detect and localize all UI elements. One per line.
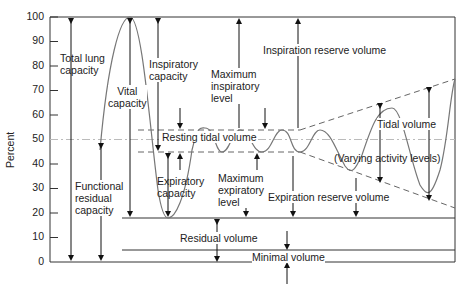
y-tick-20: 20 xyxy=(20,206,44,218)
y-tick-40: 40 xyxy=(20,157,44,169)
y-tick-30: 30 xyxy=(20,181,44,193)
label-inspiration-reserve-volume: Inspiration reserve volume xyxy=(263,44,386,56)
lung-volume-diagram: 100 90 80 70 60 50 40 30 20 10 0 Percent… xyxy=(0,0,471,297)
y-tick-90: 90 xyxy=(20,34,44,46)
y-tick-70: 70 xyxy=(20,83,44,95)
label-vital-capacity: Vital capacity xyxy=(108,85,147,109)
label-functional-residual-capacity: Functional residual capacity xyxy=(75,180,123,216)
y-tick-80: 80 xyxy=(20,59,44,71)
label-resting-tidal-volume: Resting tidal volume xyxy=(162,131,257,143)
label-expiration-reserve-volume: Expiration reserve volume xyxy=(268,191,389,203)
label-total-lung-capacity: Total lung capacity xyxy=(60,52,105,76)
label-maximum-expiratory-level: Maximum expiratory level xyxy=(218,172,264,208)
y-ticks xyxy=(50,17,58,238)
y-tick-60: 60 xyxy=(20,108,44,120)
label-minimal-volume: Minimal volume xyxy=(252,251,325,263)
label-varying-activity-levels: (Varying activity levels) xyxy=(334,152,441,164)
label-expiratory-capacity: Expiratory capacity xyxy=(157,175,204,199)
y-tick-100: 100 xyxy=(20,10,44,22)
diagram-graphics xyxy=(0,0,471,297)
label-residual-volume: Residual volume xyxy=(180,232,258,244)
y-tick-50: 50 xyxy=(20,132,44,144)
y-tick-0: 0 xyxy=(20,255,44,267)
label-tidal-volume: Tidal volume xyxy=(377,118,436,130)
y-tick-10: 10 xyxy=(20,230,44,242)
label-inspiratory-capacity: Inspiratory capacity xyxy=(149,58,198,82)
y-axis-label: Percent xyxy=(4,132,16,168)
label-maximum-inspiratory-level: Maximum inspiratory level xyxy=(211,68,259,104)
